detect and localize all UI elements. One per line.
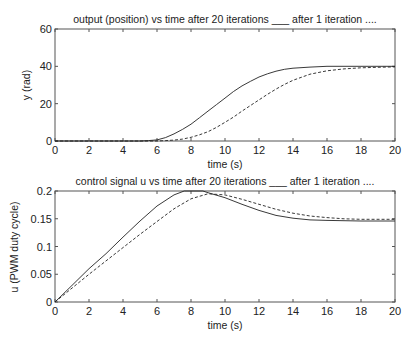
y-tick-label: 40 (40, 60, 52, 72)
y-tick-label: 0.1 (37, 241, 52, 253)
x-tick-label: 6 (154, 305, 160, 317)
position-y-label: y (rad) (20, 70, 32, 100)
figure: output (position) vs time after 20 itera… (0, 0, 414, 343)
y-tick-label: 0 (46, 296, 52, 308)
control-plot-title: control signal u vs time after 20 iterat… (76, 175, 375, 187)
position-plot-axes (55, 29, 395, 141)
control-plot-axes (55, 191, 395, 302)
x-tick-label: 12 (253, 305, 265, 317)
control-x-label: time (s) (208, 319, 243, 331)
x-tick-label: 18 (355, 144, 367, 156)
x-tick-label: 18 (355, 305, 367, 317)
x-tick-label: 20 (389, 144, 401, 156)
x-tick-label: 4 (120, 305, 126, 317)
y-tick-label: 20 (40, 98, 52, 110)
x-tick-label: 16 (321, 144, 333, 156)
x-tick-label: 8 (188, 144, 194, 156)
x-tick-label: 0 (52, 144, 58, 156)
y-tick-label: 0.15 (31, 213, 52, 225)
position-plot-title: output (position) vs time after 20 itera… (73, 13, 377, 25)
x-tick-label: 2 (86, 305, 92, 317)
control-y-label: u (PWM duty cycle) (8, 201, 20, 292)
x-tick-label: 20 (389, 305, 401, 317)
x-tick-label: 4 (120, 144, 126, 156)
x-tick-label: 14 (287, 305, 299, 317)
y-tick-label: 0.05 (31, 268, 52, 280)
x-tick-label: 12 (253, 144, 265, 156)
x-tick-label: 0 (52, 305, 58, 317)
y-tick-label: 0 (46, 135, 52, 147)
x-tick-label: 8 (188, 305, 194, 317)
x-tick-label: 10 (219, 144, 231, 156)
x-tick-label: 6 (154, 144, 160, 156)
x-tick-label: 16 (321, 305, 333, 317)
x-tick-label: 14 (287, 144, 299, 156)
y-tick-label: 0.2 (37, 185, 52, 197)
x-tick-label: 2 (86, 144, 92, 156)
position-plot: output (position) vs time after 20 itera… (20, 13, 401, 170)
position-x-label: time (s) (208, 158, 243, 170)
control-plot: control signal u vs time after 20 iterat… (8, 175, 401, 331)
y-tick-label: 60 (40, 23, 52, 35)
x-tick-label: 10 (219, 305, 231, 317)
